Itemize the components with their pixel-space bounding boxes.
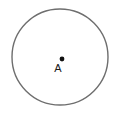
point-label-a: A — [54, 62, 62, 74]
circle-outline-shape — [12, 9, 108, 105]
geometry-figure: A — [0, 0, 123, 120]
center-point-dot — [60, 57, 65, 62]
circle-diagram-canvas: A — [0, 0, 123, 120]
